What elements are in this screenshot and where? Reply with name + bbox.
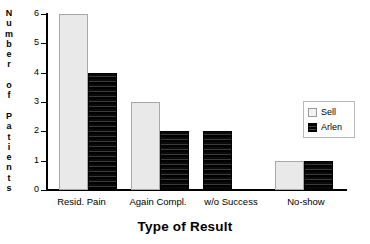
y-axis-title-char: e: [6, 152, 11, 162]
y-axis-tick-label: 2: [25, 126, 39, 135]
y-axis-title-char: t: [8, 132, 11, 142]
bar-no-show-arlen: [304, 161, 333, 190]
bar-resid-pain-sell: [59, 14, 88, 190]
y-axis-title-char: o: [6, 80, 12, 90]
legend-entry-arlen: Arlen: [308, 120, 354, 135]
y-axis-tick-label: 1: [25, 156, 39, 165]
y-axis-tick-label: 0: [25, 185, 39, 194]
x-axis-category-label: w/o Success: [191, 196, 271, 207]
bar-chart: N u m b e r · o f · P a t i e n t s 6 5 …: [0, 0, 370, 244]
y-axis-title-char: b: [6, 39, 12, 49]
legend: Sell Arlen: [303, 101, 355, 138]
x-axis-title: Type of Result: [0, 219, 370, 234]
plot-area: [47, 14, 347, 190]
y-axis-title-char: P: [6, 111, 12, 121]
bar-resid-pain-arlen: [88, 73, 117, 190]
bar-wo-success-arlen: [203, 131, 232, 190]
bar-no-show-sell: [275, 161, 304, 190]
y-axis-tick-label: 3: [25, 97, 39, 106]
x-axis-category-label: Again Compl.: [117, 196, 199, 207]
legend-entry-sell: Sell: [308, 105, 354, 120]
bar-again-compl-sell: [131, 102, 160, 190]
y-axis-tick: [41, 190, 47, 191]
legend-swatch-black-hatched-icon: [308, 123, 317, 132]
legend-swatch-light-gray-icon: [308, 108, 317, 117]
x-axis-category-label: Resid. Pain: [44, 196, 119, 207]
x-axis-category-label: No-show: [271, 196, 341, 207]
y-axis-title-char: i: [8, 142, 11, 152]
legend-label-arlen: Arlen: [321, 123, 342, 132]
y-axis-title-char: a: [6, 121, 11, 131]
bar-again-compl-arlen: [160, 131, 189, 190]
y-axis-tick-label: 5: [25, 38, 39, 47]
y-axis-title-char: n: [6, 162, 12, 172]
y-axis-title-char: t: [8, 173, 11, 183]
y-axis-tick-label: 6: [25, 9, 39, 18]
y-axis-title-char: m: [5, 29, 13, 39]
y-axis-title: N u m b e r · o f · P a t i e n t s: [2, 8, 16, 194]
y-axis-title-char: u: [6, 18, 12, 28]
y-axis-title-char: r: [7, 59, 11, 69]
y-axis-title-char: s: [6, 183, 11, 193]
legend-label-sell: Sell: [321, 108, 336, 117]
y-axis-title-char: N: [6, 8, 13, 18]
y-axis-title-char: f: [8, 90, 11, 100]
y-axis-title-char: e: [6, 49, 11, 59]
y-axis-tick-label: 4: [25, 68, 39, 77]
